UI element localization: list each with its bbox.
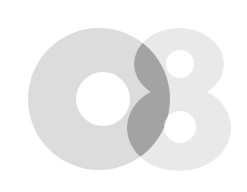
o8-logo (0, 0, 247, 192)
logo-graphic (0, 0, 247, 192)
